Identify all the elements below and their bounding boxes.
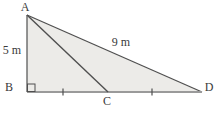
diagram-canvas: A B C D 5 m 9 m [0, 0, 217, 113]
vertex-label-b: B [5, 80, 13, 94]
vertex-label-c: C [103, 94, 111, 108]
vertex-label-a: A [21, 0, 30, 14]
triangle-diagram: A B C D 5 m 9 m [0, 0, 217, 113]
vertex-label-d: D [205, 80, 214, 94]
side-length-ab: 5 m [3, 43, 22, 57]
side-length-ad: 9 m [112, 35, 131, 49]
